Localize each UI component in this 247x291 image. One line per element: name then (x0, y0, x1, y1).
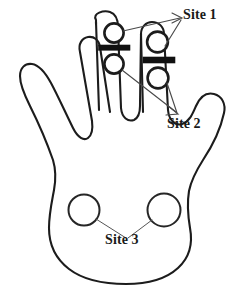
site-2-marker-middle-finger (104, 54, 123, 73)
site-3-marker-right-palm (148, 194, 181, 227)
band-middle-finger (99, 45, 131, 50)
site-3-label: Site 3 (105, 233, 139, 247)
hand-sites-diagram: Site 1 Site 2 Site 3 (0, 0, 247, 291)
site-1-label: Site 1 (183, 8, 217, 22)
site-1-marker-middle-finger (104, 23, 123, 42)
site-3-marker-left-palm (69, 195, 100, 226)
hand-illustration (0, 0, 247, 291)
band-ring-finger (143, 57, 175, 63)
site-2-label: Site 2 (167, 117, 201, 131)
site-2-marker-ring-finger (148, 68, 169, 89)
site-1-leader-from-ring-finger (165, 20, 181, 46)
site-1-marker-ring-finger (147, 32, 168, 53)
